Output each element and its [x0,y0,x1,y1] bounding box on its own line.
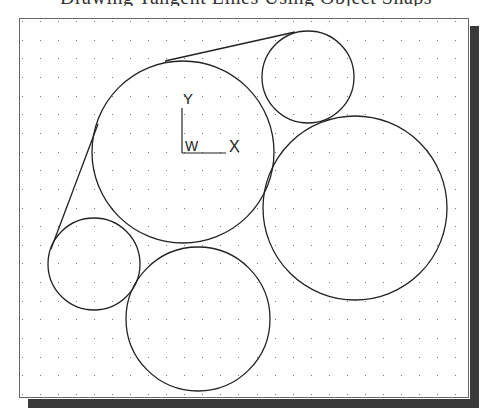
grid-dot [347,133,348,134]
grid-dot [401,58,402,59]
grid-dot [58,77,59,78]
grid-dot [293,58,294,59]
grid-dot [257,96,258,97]
grid-dot [257,226,258,227]
grid-dot [22,208,23,209]
grid-dot [455,58,456,59]
grid-dot [419,301,420,302]
grid-dot [130,245,131,246]
grid-dot [401,319,402,320]
grid-dot [347,40,348,41]
grid-dot [311,208,312,209]
grid-dot [311,338,312,339]
grid-dot [275,152,276,153]
grid-dot [293,21,294,22]
grid-dot [40,58,41,59]
grid-dot [455,208,456,209]
grid-dot [76,114,77,115]
grid-dot [329,245,330,246]
grid-dot [329,133,330,134]
grid-dot [437,338,438,339]
grid-dot [365,301,366,302]
grid-dot [401,263,402,264]
grid-dot [311,189,312,190]
grid-dot [257,319,258,320]
grid-dots [22,21,456,395]
grid-dot [22,96,23,97]
grid-dot [58,357,59,358]
grid-dot [112,319,113,320]
grid-dot [130,40,131,41]
grid-dot [220,96,221,97]
grid-dot [437,226,438,227]
grid-dot [130,375,131,376]
grid-dot [437,58,438,59]
grid-dot [329,208,330,209]
grid-dot [329,394,330,395]
grid-dot [202,263,203,264]
grid-dot [383,133,384,134]
top-tangent-line[interactable] [165,32,295,61]
grid-dot [94,226,95,227]
grid-dot [383,357,384,358]
grid-dot [58,58,59,59]
grid-dot [238,338,239,339]
grid-dot [94,58,95,59]
grid-dot [311,152,312,153]
grid-dot [329,170,330,171]
grid-dot [365,77,366,78]
grid-dot [148,21,149,22]
grid-dot [130,357,131,358]
grid-dot [58,375,59,376]
large-center-circle[interactable] [92,61,274,243]
grid-dot [58,21,59,22]
grid-dot [437,245,438,246]
grid-dot [202,58,203,59]
grid-dot [202,394,203,395]
grid-dot [257,375,258,376]
grid-dot [401,375,402,376]
grid-dot [383,282,384,283]
grid-dot [58,301,59,302]
grid-dot [401,133,402,134]
grid-dot [293,170,294,171]
grid-dot [184,357,185,358]
grid-dot [166,77,167,78]
drawing-canvas[interactable]: Y W X [0,0,496,415]
grid-dot [365,357,366,358]
grid-dot [275,40,276,41]
grid-dot [437,319,438,320]
grid-dot [401,21,402,22]
grid-dot [293,245,294,246]
grid-dot [275,96,276,97]
grid-dot [220,208,221,209]
grid-dot [437,40,438,41]
grid-dot [455,245,456,246]
grid-dot [419,319,420,320]
bottom-circle[interactable] [126,247,270,391]
grid-dot [455,394,456,395]
left-tangent-line[interactable] [51,124,98,249]
grid-dot [220,319,221,320]
grid-dot [22,21,23,22]
grid-dot [184,114,185,115]
grid-dot [347,301,348,302]
grid-dot [76,301,77,302]
grid-dot [40,208,41,209]
grid-dot [383,301,384,302]
grid-dot [401,77,402,78]
grid-dot [419,394,420,395]
grid-dot [112,114,113,115]
grid-dot [58,40,59,41]
grid-dot [112,357,113,358]
grid-dot [130,21,131,22]
grid-dot [22,301,23,302]
grid-dot [257,189,258,190]
grid-dot [329,301,330,302]
grid-dot [383,375,384,376]
grid-dot [76,133,77,134]
grid-dot [401,96,402,97]
grid-dot [58,189,59,190]
grid-dot [275,189,276,190]
grid-dot [257,394,258,395]
